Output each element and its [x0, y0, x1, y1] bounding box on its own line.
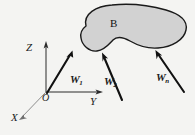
force-label-W2: W2 [104, 76, 117, 87]
force-label-W2-subscript: 2 [113, 81, 117, 89]
axis-label-y: Y [90, 96, 96, 107]
diagram-canvas [0, 0, 195, 135]
force-label-Wn-subscript: n [165, 77, 169, 85]
origin-label: O [42, 93, 49, 103]
force-label-W1-subscript: 1 [79, 79, 83, 87]
z-axis [44, 41, 49, 92]
body-blob-shape [81, 4, 187, 51]
y-axis [46, 90, 103, 95]
free-body-diagram-figure: Z Y X O W1 W2 Wn B [0, 0, 195, 135]
force-label-Wn: Wn [156, 72, 170, 83]
force-vector-W1 [47, 51, 73, 94]
axis-label-z: Z [26, 42, 32, 53]
axis-label-x: X [11, 112, 18, 123]
force-label-W1: W1 [70, 74, 83, 85]
body-label-b: B [110, 18, 117, 29]
